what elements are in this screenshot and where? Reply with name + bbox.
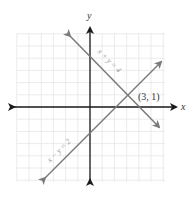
y-axis-label: y [86, 10, 92, 21]
line2-label: x − y = 2 [44, 137, 72, 165]
coordinate-plane: x y x + y = 4 x − y = 2 (3, 1) [0, 0, 192, 201]
line-x-minus-y-eq-2 [45, 62, 161, 178]
intersection-point-label: (3, 1) [138, 91, 160, 103]
x-axis-label: x [180, 101, 186, 112]
